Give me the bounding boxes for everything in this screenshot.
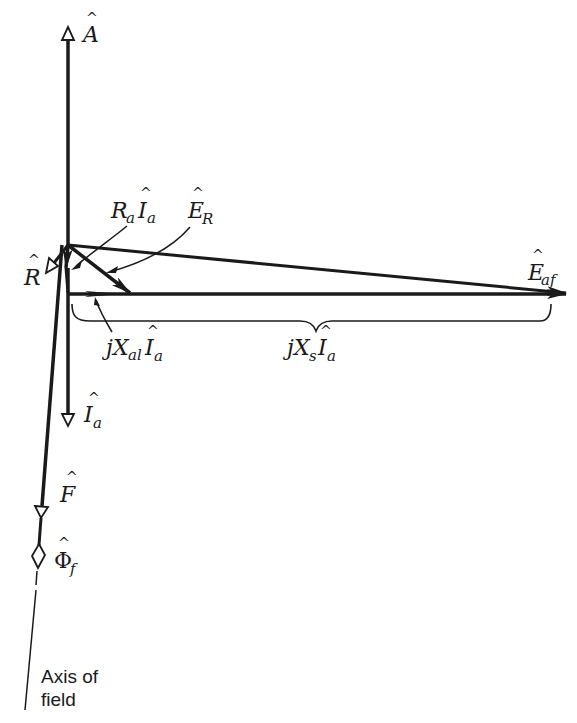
svg-text:s: s — [309, 347, 317, 365]
open-diamond-arrowhead-icon — [32, 544, 45, 568]
svg-text:f: f — [69, 560, 78, 578]
svg-text:field: field — [41, 689, 76, 710]
svg-text:a: a — [147, 209, 156, 227]
leader-RaIa — [71, 226, 127, 270]
label-ER: ^ E R — [187, 185, 213, 228]
vector-RaIa — [66, 246, 68, 268]
leader-jXalIa — [94, 297, 112, 332]
label-Ia: ^ I a — [83, 390, 102, 432]
vector-Ia — [62, 268, 74, 426]
svg-text:j: j — [101, 335, 113, 360]
svg-text:R: R — [201, 210, 213, 228]
vector-Eaf — [68, 245, 566, 293]
svg-text:al: al — [128, 346, 142, 364]
open-triangle-arrowhead-icon — [62, 27, 74, 40]
svg-text:a: a — [126, 209, 135, 227]
svg-text:R: R — [110, 198, 128, 223]
label-Phif: ^ Φ f — [54, 535, 78, 578]
label-RaIa: R a ^ I a — [110, 185, 156, 227]
vector-Phif — [32, 518, 45, 568]
label-axis-of-field: Axis of field — [41, 666, 99, 710]
phasor-diagram: ^ A R a ^ I a ^ E R ^ R ^ E af j X al ^ … — [0, 0, 577, 723]
svg-text:a: a — [93, 414, 102, 432]
svg-text:af: af — [541, 271, 558, 289]
svg-text:j: j — [282, 335, 294, 360]
svg-text:F: F — [59, 482, 76, 507]
svg-text:R: R — [23, 265, 41, 290]
label-A: ^ A — [81, 10, 99, 47]
svg-text:A: A — [81, 22, 99, 47]
open-triangle-arrowhead-icon — [62, 414, 74, 426]
vector-jXsIa — [68, 291, 566, 297]
label-jXsIa: j X s ^ I a — [282, 323, 336, 365]
label-F: ^ F — [59, 469, 78, 507]
label-Eaf: ^ E af — [527, 247, 558, 289]
open-triangle-arrowhead-icon — [35, 506, 48, 518]
brace-jXsIa — [72, 304, 551, 331]
field-axis-line — [25, 571, 37, 710]
svg-text:a: a — [327, 347, 336, 365]
vector-A — [62, 27, 74, 245]
label-R: ^ R — [23, 252, 41, 290]
svg-text:Axis of: Axis of — [41, 666, 99, 687]
svg-text:a: a — [154, 347, 163, 365]
